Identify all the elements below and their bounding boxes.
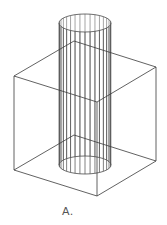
cube-edge <box>74 41 156 67</box>
cube-edge <box>14 76 97 102</box>
cube-edge <box>97 67 156 102</box>
cube-edge <box>14 135 74 170</box>
cylinder-cube-diagram <box>0 0 167 225</box>
cube-edge <box>97 161 156 196</box>
cube-edge <box>14 41 74 76</box>
cube-edge <box>74 135 156 161</box>
figure-caption: A. <box>62 205 74 218</box>
cylinder-generator-lines <box>59 14 111 174</box>
